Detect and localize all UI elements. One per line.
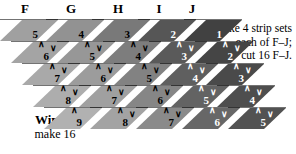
strip-cell: 1∧ (184, 19, 242, 41)
chevron-down-icon: ∨ (256, 88, 263, 97)
chevron-up-icon: ∧ (233, 62, 240, 71)
column-header-i: I (150, 1, 168, 17)
chevron-up-icon: ∧ (130, 40, 137, 49)
column-header-h: H (109, 1, 127, 17)
fabric-swatch (184, 20, 242, 41)
chevron-down-icon: ∨ (234, 44, 241, 53)
chevron-down-icon: ∨ (267, 110, 274, 119)
chevron-up-icon: ∧ (84, 40, 91, 49)
strip-column-j: 1∧2∨∧3∨∧4∨∧5∨ (184, 19, 242, 151)
column-header-j: J (183, 1, 201, 17)
chevron-up-icon: ∧ (176, 40, 183, 49)
chevron-up-icon: ∧ (38, 40, 45, 49)
column-header-row: FGHIJ (0, 0, 296, 20)
chevron-down-icon: ∨ (245, 66, 252, 75)
chevron-up-icon: ∧ (244, 84, 251, 93)
column-header-g: G (62, 1, 80, 17)
strip-number: 5 (261, 117, 267, 128)
quilt-strip-diagram: FGHIJ 5∧6∨∧7∨∧8∨∧94∧5∨∧6∨∧7∨∧8∨3∧4∨∧5∨∧6… (0, 0, 296, 154)
column-header-f: F (16, 1, 34, 17)
chevron-up-icon: ∧ (255, 106, 262, 115)
chevron-up-icon: ∧ (222, 40, 229, 49)
